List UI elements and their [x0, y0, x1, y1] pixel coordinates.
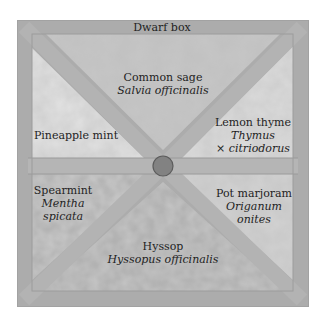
label-spearmint: Spearmint Mentha spicata [34, 184, 92, 223]
latin-name-line2: onites [216, 213, 292, 226]
common-name: Spearmint [34, 184, 92, 197]
latin-name-line2: spicata [34, 210, 92, 223]
herb-garden-plan: Dwarf box Common sage Salvia officinalis… [0, 0, 327, 329]
common-name: Lemon thyme [215, 116, 291, 129]
label-pot-marjoram: Pot marjoram Origanum onites [216, 187, 292, 226]
latin-name: Hyssopus officinalis [108, 253, 219, 266]
latin-name: Origanum [216, 200, 292, 213]
common-name: Pot marjoram [216, 187, 292, 200]
latin-name: Mentha [34, 197, 92, 210]
common-name: Pineapple mint [34, 129, 118, 142]
common-name: Hyssop [108, 240, 219, 253]
latin-name-line2: × citriodorus [215, 142, 291, 155]
label-hyssop: Hyssop Hyssopus officinalis [108, 240, 219, 266]
border-label: Dwarf box [133, 22, 191, 34]
latin-name: Salvia officinalis [117, 84, 208, 97]
center-stone-icon [153, 156, 173, 176]
latin-name: Thymus [215, 129, 291, 142]
label-lemon-thyme: Lemon thyme Thymus × citriodorus [215, 116, 291, 155]
label-common-sage: Common sage Salvia officinalis [117, 71, 208, 97]
common-name: Common sage [117, 71, 208, 84]
label-pineapple-mint: Pineapple mint [34, 129, 118, 142]
garden-plan-drawing [0, 0, 327, 329]
